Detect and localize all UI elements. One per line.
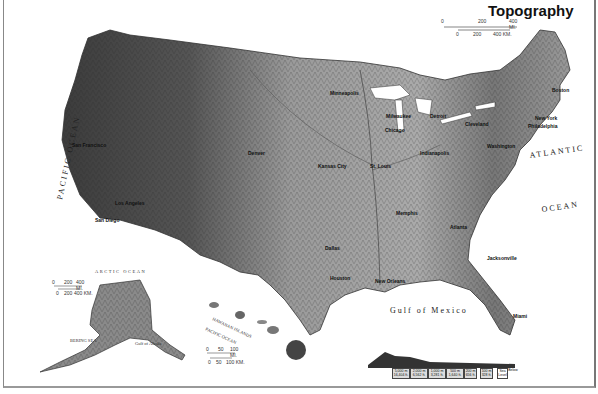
main-scale-miles: 0 200 400 MI. [441,18,521,24]
main-scale-km: 0 200 400 KM. [456,31,536,37]
city-label: New York [535,115,558,121]
scale-tick: 0 [441,18,444,24]
scale-tick: 0 [56,290,59,296]
arctic-ocean-label: ARCTIC OCEAN [95,269,146,274]
city-label: Philadelphia [528,123,558,129]
city-label: Los Angeles [115,200,145,206]
scale-tick: 200 [64,290,72,296]
scale-tick: 200 [64,279,72,285]
city-label: Denver [248,150,265,156]
scale-tick: 50 [218,346,224,352]
gulf-of-mexico-label: Gulf of Mexico [390,306,468,315]
city-label: San Francisco [72,142,106,148]
city-label: Indianapolis [420,150,449,156]
relief-legend-below: Below [508,368,518,377]
city-label: Memphis [396,210,418,216]
scale-tick: 0 [208,359,211,365]
scale-tick: 50 [216,359,222,365]
scale-tick: 100 MI. [230,346,246,358]
scale-tick: 400 KM. [493,31,512,37]
relief-legend-2000m: 2,000 m 6,562 ft. [410,368,428,379]
relief-legend-graphic [368,352,515,368]
city-label: Dallas [325,245,340,251]
hawaii-scale-km: 0 50 100 KM. [208,359,248,365]
relief-legend-5000m: 5,000 m 16,404 ft. [392,368,410,379]
scale-tick: 0 [456,31,459,37]
bering-sea-label: BERING SEA [70,338,97,343]
city-label: Atlanta [450,224,467,230]
main-scale-bar [444,27,517,30]
topographic-map: PACIFIC OCEAN ATLANTIC OCEAN Gulf of Mex… [0,0,598,394]
scale-tick: 400 KM. [74,290,93,296]
hawaii-scale-miles: 0 50 100 MI. [206,346,246,352]
gulf-of-alaska-label: Gulf of Alaska [135,341,162,346]
atlantic-ocean-label-2: OCEAN [541,200,579,214]
city-label: Miami [513,313,528,319]
atlantic-ocean-label: ATLANTIC [529,143,585,160]
relief-legend-100m: 100 m 328 ft. [480,368,493,379]
alaska-scale-miles: 0 200 400 MI. [52,279,92,285]
scale-tick: 200 [473,31,481,37]
city-label: San Diego [95,217,119,223]
city-label: Jacksonville [487,255,517,261]
relief-legend-200m: 200 m 656 ft. [464,368,477,379]
city-label: Detroit [430,113,446,119]
city-label: Washington [487,143,515,149]
scale-tick: 0 [52,279,55,285]
city-label: Chicago [385,127,405,133]
scale-tick: 200 [478,18,486,24]
map-title: Topography [488,2,574,19]
city-label: Minneapolis [330,90,359,96]
scale-tick: 100 KM. [226,359,245,365]
city-label: Boston [552,87,569,93]
relief-legend-500m: 500 m 1,640 ft. [446,368,464,379]
city-label: New Orleans [375,278,406,284]
scale-tick: 0 [206,346,209,352]
scale-tick: 400 MI. [509,18,521,30]
city-label: Houston [330,275,350,281]
alaska-scale-km: 0 200 400 KM. [56,290,96,296]
city-label: Milwaukee [386,113,411,119]
city-label: Kansas City [318,163,347,169]
city-label: St. Louis [370,163,391,169]
relief-legend-1000m: 1,000 m 3,281 ft. [428,368,446,379]
city-label: Cleveland [465,121,489,127]
relief-legend-sea-level: Sea Level [497,368,508,379]
